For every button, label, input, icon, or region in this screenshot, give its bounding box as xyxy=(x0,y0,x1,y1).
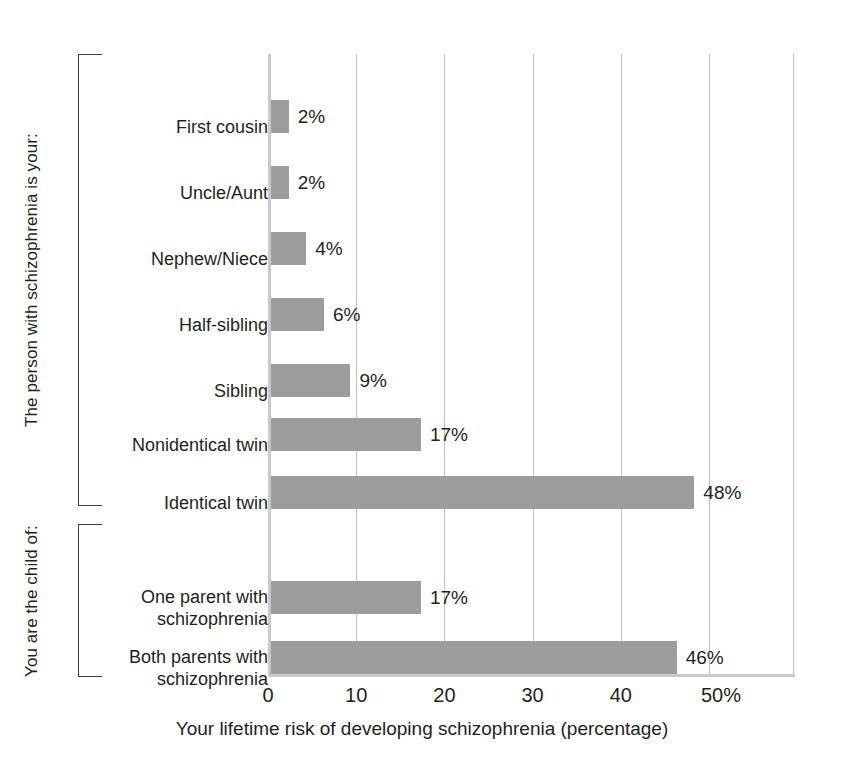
gridline-right-edge xyxy=(793,54,794,677)
bar-value-label: 2% xyxy=(298,100,325,133)
bar xyxy=(271,298,324,331)
category-label: Half-sibling xyxy=(38,314,268,336)
bar-value-label: 2% xyxy=(298,166,325,199)
x-tick-label: 30 xyxy=(521,684,543,707)
bar xyxy=(271,364,350,397)
bar xyxy=(271,418,421,451)
x-tick-label: 20 xyxy=(433,684,455,707)
bar-chart: The person with schizophrenia is your: Y… xyxy=(0,0,844,772)
category-axis-labels: First cousinUncle/AuntNephew/NieceHalf-s… xyxy=(18,54,268,677)
plot-area xyxy=(268,54,795,677)
category-label: Nephew/Niece xyxy=(38,248,268,270)
x-tick-label: 10 xyxy=(345,684,367,707)
x-axis-title: Your lifetime risk of developing schizop… xyxy=(0,718,844,740)
bar-value-label: 6% xyxy=(333,298,360,331)
x-axis-line xyxy=(268,674,795,677)
y-axis-line xyxy=(268,54,271,677)
bar xyxy=(271,100,289,133)
x-tick-label: 0 xyxy=(262,684,273,707)
x-tick-label: 50% xyxy=(701,684,741,707)
bar-value-label: 48% xyxy=(703,476,741,509)
bar xyxy=(271,476,694,509)
gridline-40 xyxy=(621,54,622,677)
category-label: Sibling xyxy=(38,380,268,402)
bar xyxy=(271,166,289,199)
category-label: Both parents with schizophrenia xyxy=(38,646,268,690)
gridline-30 xyxy=(533,54,534,677)
bar xyxy=(271,232,306,265)
bar-value-label: 17% xyxy=(430,418,468,451)
x-tick-label: 40 xyxy=(610,684,632,707)
bar-value-label: 46% xyxy=(686,641,724,674)
category-label: First cousin xyxy=(38,116,268,138)
category-label: Uncle/Aunt xyxy=(38,182,268,204)
category-label: Nonidentical twin xyxy=(38,434,268,456)
bar-value-label: 4% xyxy=(315,232,342,265)
x-axis-tick-labels: 01020304050% xyxy=(268,684,808,714)
gridline-50 xyxy=(709,54,710,677)
category-label: One parent with schizophrenia xyxy=(38,586,268,630)
bar xyxy=(271,581,421,614)
bar-value-label: 9% xyxy=(359,364,386,397)
bar-value-label: 17% xyxy=(430,581,468,614)
bar xyxy=(271,641,677,674)
category-label: Identical twin xyxy=(38,492,268,514)
